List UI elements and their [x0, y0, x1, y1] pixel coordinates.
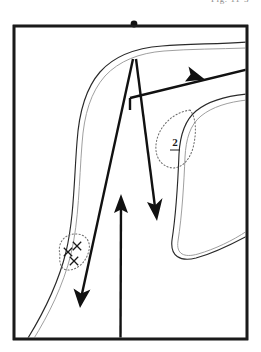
figure-root: Fig. 11-3	[0, 0, 261, 352]
sketch-map-canvas: 2	[0, 0, 261, 352]
arrow-up-center-shaft	[121, 203, 122, 339]
region-label-2: 2	[172, 136, 178, 148]
